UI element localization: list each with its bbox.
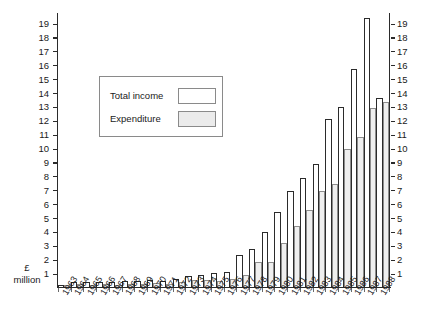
bar-group (274, 13, 287, 288)
y-tick-label-right: 19 (397, 19, 408, 29)
y-tick-right (391, 51, 395, 52)
y-tick-right (391, 232, 395, 233)
y-axis-unit-label: £ million (2, 262, 52, 286)
y-tick-label-left: 13 (38, 102, 49, 112)
y-tick-label-right: 13 (397, 102, 408, 112)
y-tick-label-right: 16 (397, 61, 408, 71)
bar-group (185, 13, 198, 288)
y-tick-right (391, 274, 395, 275)
y-tick-label-right: 3 (397, 241, 402, 251)
y-tick-label-left: 3 (44, 241, 49, 251)
bar-total-income (364, 18, 370, 288)
bar-group (325, 13, 338, 288)
y-tick-label-right: 10 (397, 144, 408, 154)
legend-label-total-income: Total income (110, 91, 163, 101)
bar-group (351, 13, 364, 288)
denomination-text: million (2, 274, 52, 286)
y-tick-label-right: 2 (397, 255, 402, 265)
bar-group (58, 13, 71, 288)
bar-total-income (313, 164, 319, 288)
y-tick-left (53, 121, 57, 122)
bar-chart: 12345678910111213141516171819 1234567891… (0, 0, 431, 328)
y-tick-label-left: 6 (44, 200, 49, 210)
bar-total-income (376, 98, 382, 288)
bar-group (134, 13, 147, 288)
bar-group (122, 13, 135, 288)
y-tick-left (53, 24, 57, 25)
bar-group (287, 13, 300, 288)
bar-group (109, 13, 122, 288)
y-tick-left (53, 135, 57, 136)
legend-label-expenditure: Expenditure (110, 114, 161, 124)
bar-group (262, 13, 275, 288)
y-tick-right (391, 107, 395, 108)
y-tick-right (391, 135, 395, 136)
legend-swatch-expenditure (178, 111, 216, 127)
bar-group (376, 13, 389, 288)
y-tick-left (53, 149, 57, 150)
y-tick-label-right: 8 (397, 172, 402, 182)
bar-total-income (287, 191, 293, 288)
y-tick-right (391, 162, 395, 163)
y-tick-label-left: 14 (38, 89, 49, 99)
y-tick-label-left: 4 (44, 227, 49, 237)
y-tick-label-left: 12 (38, 116, 49, 126)
y-tick-right (391, 93, 395, 94)
y-tick-label-left: 16 (38, 61, 49, 71)
y-tick-left (53, 37, 57, 38)
y-tick-right (391, 65, 395, 66)
y-tick-left (53, 93, 57, 94)
y-tick-left (53, 176, 57, 177)
bar-total-income (325, 119, 331, 288)
y-tick-right (391, 24, 395, 25)
y-tick-left (53, 218, 57, 219)
y-tick-right (391, 176, 395, 177)
x-tick (58, 288, 59, 292)
y-tick-label-right: 1 (397, 269, 402, 279)
y-tick-right (391, 246, 395, 247)
y-tick-label-left: 10 (38, 144, 49, 154)
y-tick-label-right: 7 (397, 186, 402, 196)
bar-group (160, 13, 173, 288)
y-tick-right (391, 149, 395, 150)
y-tick-label-left: 7 (44, 186, 49, 196)
y-tick-label-right: 4 (397, 227, 402, 237)
y-tick-right (391, 218, 395, 219)
bar-group (313, 13, 326, 288)
bar-expenditure (383, 102, 389, 288)
y-tick-label-right: 18 (397, 33, 408, 43)
y-tick-right (391, 190, 395, 191)
y-tick-label-right: 11 (397, 130, 407, 140)
y-tick-label-left: 5 (44, 214, 49, 224)
y-tick-left (53, 107, 57, 108)
bar-group (236, 13, 249, 288)
y-tick-left (53, 246, 57, 247)
legend: Total income Expenditure (99, 76, 223, 137)
y-tick-left (53, 162, 57, 163)
y-tick-label-left: 18 (38, 33, 49, 43)
y-tick-label-left: 17 (38, 47, 49, 57)
bar-group (147, 13, 160, 288)
y-tick-label-right: 17 (397, 47, 408, 57)
legend-item-total-income: Total income (110, 87, 216, 105)
y-tick-label-left: 9 (44, 158, 49, 168)
bar-group (198, 13, 211, 288)
y-tick-left (53, 260, 57, 261)
bar-group (224, 13, 237, 288)
y-tick-label-right: 12 (397, 116, 408, 126)
bar-total-income (300, 178, 306, 288)
y-tick-left (53, 232, 57, 233)
bar-total-income (338, 107, 344, 288)
y-tick-label-left: 11 (39, 130, 49, 140)
y-tick-label-right: 6 (397, 200, 402, 210)
y-tick-right (391, 121, 395, 122)
bar-group (364, 13, 377, 288)
y-tick-right (391, 204, 395, 205)
y-tick-label-right: 9 (397, 158, 402, 168)
y-tick-label-left: 15 (38, 75, 49, 85)
bar-total-income (351, 69, 357, 288)
bar-group (249, 13, 262, 288)
y-tick-left (53, 79, 57, 80)
y-tick-left (53, 51, 57, 52)
bar-group (300, 13, 313, 288)
